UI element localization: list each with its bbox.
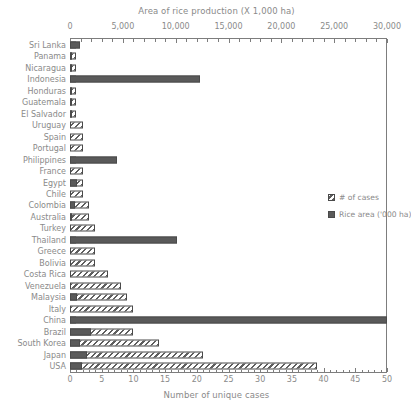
bar-cases	[70, 168, 83, 175]
bar-rice-area	[70, 99, 72, 106]
bar-row: Malaysia	[70, 292, 387, 303]
top-axis-tick-labels: 05,00010,00015,00020,00025,00030,000	[0, 22, 407, 33]
bar-row: Portugal	[70, 142, 387, 153]
top-tick-label: 10,000	[162, 22, 190, 31]
bottom-tick-label: 35	[287, 375, 297, 384]
bottom-tick-label: 30	[255, 375, 265, 384]
category-label: Egypt	[43, 178, 66, 187]
category-label: Spain	[44, 132, 66, 141]
bar-row: Italy	[70, 303, 387, 314]
bar-rice-area	[70, 41, 80, 48]
bar-row: Greece	[70, 246, 387, 257]
bar-rice-area	[70, 179, 77, 186]
bar-rice-area	[70, 87, 72, 94]
bar-row: France	[70, 165, 387, 176]
bar-rice-area	[70, 363, 82, 370]
bar-cases	[70, 191, 83, 198]
category-label: Colombia	[28, 201, 66, 210]
top-axis-title: Area of rice production (X 1,000 ha)	[0, 6, 407, 16]
category-label: Portugal	[33, 144, 66, 153]
bar-cases	[70, 363, 317, 370]
category-label: Sri Lanka	[29, 40, 66, 49]
chart-legend: # of cases Rice area ('000 ha)	[328, 194, 411, 227]
bar-row: Guatemala	[70, 96, 387, 107]
bottom-tick-label: 25	[223, 375, 233, 384]
bar-row: Thailand	[70, 234, 387, 245]
top-tick-label: 25,000	[320, 22, 348, 31]
bar-rice-area	[70, 110, 72, 117]
bottom-tick-label: 20	[192, 375, 202, 384]
bar-row: Philippines	[70, 154, 387, 165]
category-label: Indonesia	[27, 75, 66, 84]
bar-rice-area	[70, 76, 200, 83]
bottom-tick-label: 5	[99, 375, 104, 384]
bottom-tick-label: 50	[382, 375, 392, 384]
bar-row: Spain	[70, 131, 387, 142]
category-label: Panama	[34, 52, 66, 61]
category-label: Venezuela	[25, 281, 66, 290]
legend-label-rice-area: Rice area ('000 ha)	[339, 211, 411, 219]
bar-row: Brazil	[70, 326, 387, 337]
category-label: El Salvador	[21, 109, 66, 118]
category-label: Uruguay	[32, 121, 66, 130]
category-label: Thailand	[32, 235, 66, 244]
bar-cases	[70, 351, 203, 358]
plot-area: Sri LankaPanamaNicaraguaIndonesiaHondura…	[70, 38, 387, 373]
category-label: China	[43, 316, 66, 325]
legend-label-cases: # of cases	[339, 194, 379, 202]
bar-cases	[70, 145, 83, 152]
bar-rice-area	[70, 53, 72, 60]
category-label: Guatemala	[22, 98, 66, 107]
bar-row: Costa Rica	[70, 269, 387, 280]
bar-row: Japan	[70, 349, 387, 360]
category-label: USA	[49, 362, 66, 371]
bottom-tick-label: 10	[128, 375, 138, 384]
legend-swatch-rice-area-icon	[328, 211, 335, 218]
bar-row: USA	[70, 361, 387, 372]
bar-rice-area	[70, 294, 77, 301]
bottom-tick-label: 45	[350, 375, 360, 384]
category-label: Costa Rica	[24, 270, 66, 279]
top-tick-label: 20,000	[267, 22, 295, 31]
bottom-axis-line	[70, 372, 387, 373]
top-tick-label: 30,000	[373, 22, 401, 31]
category-label: Australia	[31, 212, 66, 221]
category-label: Bolivia	[39, 258, 66, 267]
category-label: South Korea	[18, 339, 66, 348]
bar-row: Nicaragua	[70, 62, 387, 73]
bar-rice-area	[70, 202, 75, 209]
category-label: Honduras	[28, 86, 67, 95]
category-label: Nicaragua	[25, 63, 66, 72]
category-label: France	[39, 167, 66, 176]
bar-cases	[70, 259, 95, 266]
category-label: Chile	[46, 190, 66, 199]
bottom-tick-label: 40	[319, 375, 329, 384]
category-label: Brazil	[44, 327, 66, 336]
top-tick-mark	[387, 39, 388, 43]
legend-item-cases: # of cases	[328, 194, 411, 202]
bar-cases	[70, 133, 83, 140]
bottom-axis-tick-labels: 05101520253035404550	[0, 375, 407, 386]
bar-cases	[70, 248, 95, 255]
legend-item-rice-area: Rice area ('000 ha)	[328, 211, 411, 219]
bar-row: Venezuela	[70, 280, 387, 291]
bar-rice-area	[70, 351, 87, 358]
bar-row: South Korea	[70, 338, 387, 349]
bottom-tick-mark	[387, 368, 388, 372]
bar-row: Honduras	[70, 85, 387, 96]
bar-rice-area	[70, 340, 80, 347]
bar-cases	[70, 305, 133, 312]
bar-rice-area	[70, 328, 91, 335]
category-label: Malaysia	[31, 293, 66, 302]
bar-rice-area	[70, 156, 117, 163]
top-tick-label: 0	[67, 22, 72, 31]
top-tick-label: 5,000	[111, 22, 134, 31]
bottom-tick-label: 15	[160, 375, 170, 384]
bar-cases	[70, 122, 83, 129]
bar-cases	[70, 213, 89, 220]
category-label: Italy	[49, 304, 66, 313]
bar-row: Egypt	[70, 177, 387, 188]
legend-swatch-cases-icon	[328, 194, 335, 201]
bar-cases	[70, 282, 121, 289]
